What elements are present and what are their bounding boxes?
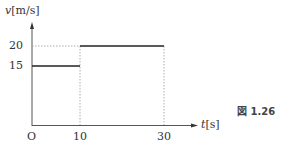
x-tick-10: 10: [73, 131, 87, 143]
x-axis-arrow-icon: [191, 124, 198, 128]
x-tick-30: 30: [157, 131, 171, 143]
y-axis-arrow-icon: [30, 22, 34, 29]
figure-caption: 図 1.26: [237, 103, 275, 118]
origin-label: O: [27, 131, 36, 143]
y-tick-20: 20: [9, 40, 23, 52]
y-axis-label: v[m/s]: [5, 5, 40, 17]
chart-plot: [0, 0, 285, 148]
y-tick-15: 15: [9, 60, 23, 72]
x-axis-label: t[s]: [201, 119, 220, 131]
